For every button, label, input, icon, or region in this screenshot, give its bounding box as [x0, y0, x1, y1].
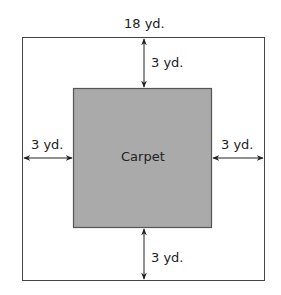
left-gap-label: 3 yd. [31, 137, 63, 152]
bottom-gap-label: 3 yd. [151, 250, 183, 265]
outer-width-label: 18 yd. [124, 16, 165, 31]
carpet-label: Carpet [121, 149, 165, 164]
right-gap-label: 3 yd. [221, 137, 253, 152]
top-gap-label: 3 yd. [151, 55, 183, 70]
